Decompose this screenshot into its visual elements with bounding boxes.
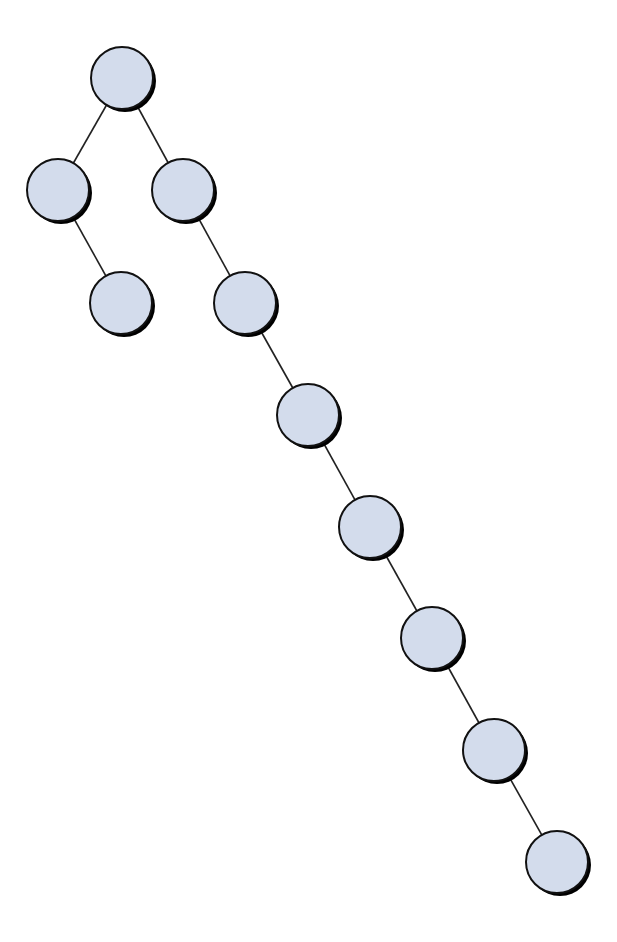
tree-node bbox=[91, 47, 156, 112]
tree-node bbox=[401, 607, 466, 672]
node-circle bbox=[463, 719, 525, 781]
node-circle bbox=[214, 272, 276, 334]
node-circle bbox=[526, 831, 588, 893]
tree-node bbox=[463, 719, 528, 784]
tree-node bbox=[214, 272, 279, 337]
tree-node bbox=[526, 831, 591, 896]
tree-node bbox=[27, 159, 92, 224]
node-circle bbox=[91, 47, 153, 109]
node-circle bbox=[152, 159, 214, 221]
node-circle bbox=[401, 607, 463, 669]
tree-node bbox=[339, 496, 404, 561]
tree-node bbox=[277, 384, 342, 449]
node-circle bbox=[277, 384, 339, 446]
tree-node bbox=[90, 272, 155, 337]
node-circle bbox=[339, 496, 401, 558]
tree-diagram bbox=[0, 0, 617, 942]
tree-node bbox=[152, 159, 217, 224]
node-circle bbox=[90, 272, 152, 334]
node-circle bbox=[27, 159, 89, 221]
tree-nodes bbox=[27, 47, 591, 896]
